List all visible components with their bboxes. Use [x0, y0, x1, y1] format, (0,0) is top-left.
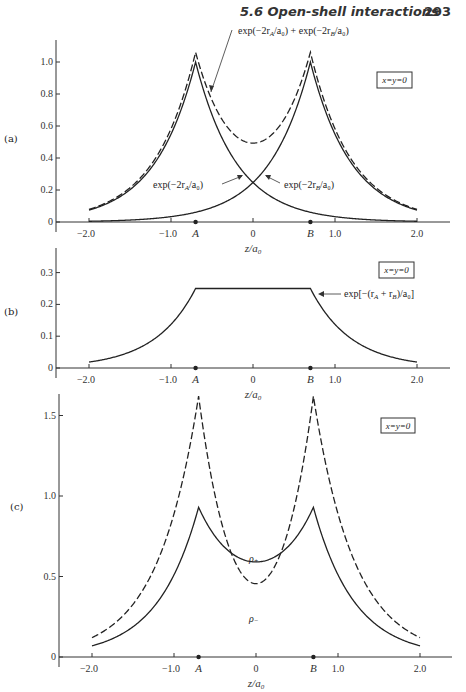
arrow-sum [211, 30, 232, 92]
y-tick-label: 0.2 [41, 184, 54, 195]
svg-text:x=y=0: x=y=0 [381, 75, 407, 85]
x-tick-label: 1.0 [332, 663, 345, 674]
x-tick-label: 2.0 [411, 228, 424, 239]
rho-minus-label: ρ− [248, 613, 259, 625]
annotation-expA: exp(−2rA/a₀) [153, 175, 243, 192]
x-tick-label: −1.0 [159, 228, 177, 239]
nucleus-label-b: B [310, 662, 317, 674]
coordinate-box-a: x=y=0 [377, 72, 412, 88]
x-tick-label: 1.0 [329, 228, 342, 239]
y-tick-label: 1.5 [44, 410, 57, 421]
series-rhoplus [92, 507, 420, 646]
y-tick-label: 0.6 [41, 120, 54, 131]
x-tick-label: 2.0 [411, 374, 424, 385]
nucleus-dot-b [308, 366, 312, 370]
figure-canvas: 00.20.40.60.81.0−2.0−1.001.02.0ABz/a0 00… [0, 0, 466, 692]
annotation-prod: exp[−(rA + rB)/a₀] [318, 288, 414, 301]
nucleus-dot-a [193, 220, 197, 224]
series-rhominus [92, 396, 420, 637]
y-tick-label: 0.8 [41, 88, 54, 99]
x-tick-label: −2.0 [77, 374, 95, 385]
y-tick-label: 0.1 [41, 330, 54, 341]
svg-text:exp[−(rA + rB)/a₀]: exp[−(rA + rB)/a₀] [344, 288, 414, 301]
rho-plus-label: ρ+ [248, 553, 259, 565]
x-axis-title: z/a0 [244, 242, 262, 256]
series-prod [89, 289, 417, 363]
nucleus-dot-b [311, 655, 315, 659]
coordinate-box-b: x=y=0 [379, 262, 414, 278]
nucleus-label-a: A [191, 373, 199, 385]
svg-text:exp(−2rA/a₀) + exp(−2rB/a₀): exp(−2rA/a₀) + exp(−2rB/a₀) [238, 25, 349, 38]
arrowhead-icon [209, 85, 214, 92]
x-tick-label: −1.0 [162, 663, 180, 674]
nucleus-label-a: A [191, 227, 199, 239]
x-tick-label: 0 [251, 228, 256, 239]
y-tick-label: 1.0 [41, 56, 54, 67]
series-sum [89, 52, 417, 209]
nucleus-label-a: A [194, 662, 202, 674]
x-tick-label: −1.0 [159, 374, 177, 385]
svg-text:x=y=0: x=y=0 [385, 421, 411, 431]
annotation-expB: exp(−2rB/a₀) [265, 175, 334, 192]
x-axis-title: z/a0 [247, 677, 265, 691]
y-tick-label: 1.0 [44, 490, 57, 501]
annotation-sum: exp(−2rA/a₀) + exp(−2rB/a₀) [209, 25, 349, 92]
x-axis-title: z/a0 [244, 388, 262, 402]
x-tick-label: 0 [254, 663, 259, 674]
y-tick-label: 0.2 [41, 298, 54, 309]
y-tick-label: 0.5 [44, 571, 57, 582]
chart-panel-c: 00.51.01.5−2.0−1.001.02.0ABz/a0 [44, 394, 453, 691]
y-tick-label: 0 [48, 216, 53, 227]
arrowhead-icon [265, 175, 271, 180]
x-tick-label: 2.0 [414, 663, 427, 674]
svg-text:exp(−2rA/a₀): exp(−2rA/a₀) [153, 179, 203, 192]
arrowhead-icon [318, 291, 324, 297]
svg-text:exp(−2rB/a₀): exp(−2rB/a₀) [284, 179, 334, 192]
nucleus-dot-a [196, 655, 200, 659]
x-tick-label: −2.0 [80, 663, 98, 674]
nucleus-label-b: B [307, 227, 314, 239]
y-tick-label: 0.4 [41, 152, 54, 163]
svg-text:x=y=0: x=y=0 [383, 265, 409, 275]
coordinate-box-c: x=y=0 [381, 418, 415, 433]
x-tick-label: 0 [251, 374, 256, 385]
y-tick-label: 0 [51, 651, 56, 662]
nucleus-label-b: B [307, 373, 314, 385]
series-expB [89, 62, 417, 221]
series-expA [89, 62, 417, 221]
nucleus-dot-b [308, 220, 312, 224]
y-tick-label: 0.3 [41, 267, 54, 278]
nucleus-dot-a [193, 366, 197, 370]
y-tick-label: 0 [48, 362, 53, 373]
x-tick-label: −2.0 [77, 228, 95, 239]
x-tick-label: 1.0 [329, 374, 342, 385]
